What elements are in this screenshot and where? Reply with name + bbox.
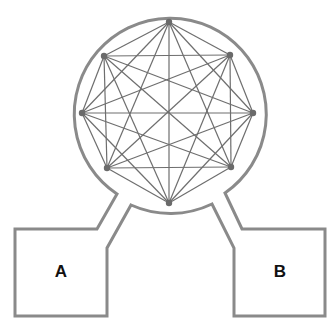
graph-node [166,200,172,206]
graph-node [104,165,110,171]
graph-edge [169,113,253,203]
graph-edge [82,113,231,167]
graph-node [250,110,256,116]
graph-node [101,53,107,59]
graph-node [166,19,172,25]
graph-edge [169,22,230,55]
graph-edge [230,55,231,167]
graph-node [227,52,233,58]
graph-edge [104,55,230,56]
graph-edge [82,22,169,113]
graph-edge [169,167,231,203]
graph-edge [104,56,169,203]
graph-edge [104,56,231,167]
graph-edge [231,113,253,167]
graph-node [79,110,85,116]
graph-edge [104,22,169,56]
graph-edge [82,113,169,203]
graph-edge [107,167,231,168]
graph-edge [230,55,253,113]
chamber-label-b: B [274,262,286,281]
graph-edge [104,56,107,168]
graph-edges [82,22,253,203]
graph-node [228,164,234,170]
graph-edge [169,55,230,203]
chamber-label-a: A [55,262,67,281]
graph-edge [169,22,231,167]
graph-edge [107,22,169,168]
graph-edge [82,56,104,113]
diagram-canvas: A B [0,0,331,326]
